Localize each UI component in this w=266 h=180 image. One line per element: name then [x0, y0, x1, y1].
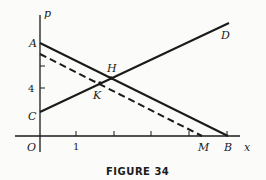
origin-label: O	[27, 141, 36, 154]
point-h-label: H	[106, 62, 117, 75]
line-ab	[40, 43, 228, 136]
y-axis-label: p	[44, 7, 51, 20]
x-tick-label-1: 1	[73, 141, 79, 152]
point-b-label: B	[223, 141, 232, 154]
point-k-label: K	[92, 89, 102, 102]
y-tick-label-4: 4	[28, 83, 34, 94]
point-k-marker	[98, 81, 102, 85]
point-m-label: M	[197, 141, 210, 154]
x-axis-label: x	[244, 141, 251, 154]
point-a-label: A	[28, 37, 37, 50]
point-d-label: D	[220, 29, 230, 42]
dashed-line-to-m	[40, 54, 202, 136]
figure-diagram: p x O 1 4 A C H K D M B FIGURE 34	[0, 0, 266, 180]
point-c-label: C	[28, 110, 37, 123]
figure-caption: FIGURE 34	[106, 166, 169, 177]
line-cd	[40, 23, 229, 112]
point-h-marker	[109, 76, 113, 80]
